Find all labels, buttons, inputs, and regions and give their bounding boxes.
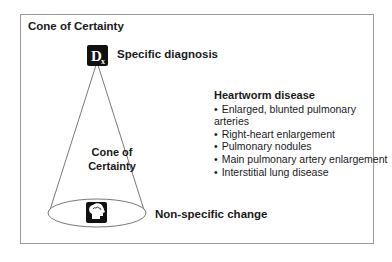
specific-diagnosis-label: Specific diagnosis [117,48,218,60]
list-item: Main pulmonary artery enlargement [214,153,392,166]
findings-title: Heartworm disease [214,89,392,102]
brain-head-icon [86,202,107,223]
non-specific-change-label: Non-specific change [155,208,267,220]
list-item: Right-heart enlargement [214,128,392,141]
cone-label: Cone of Certainty [82,145,142,173]
list-item: Interstitial lung disease [214,166,392,179]
cone-label-line1: Cone of [82,145,142,159]
cone-label-line2: Certainty [82,159,142,173]
findings-list: Heartworm disease Enlarged, blunted pulm… [214,89,392,178]
dx-icon: D x [87,45,108,66]
cone-left-edge [49,62,97,213]
cone-right-edge [97,62,145,213]
list-item: Enlarged, blunted pulmonary arteries [214,103,392,128]
list-item: Pulmonary nodules [214,140,392,153]
svg-text:x: x [101,57,105,66]
